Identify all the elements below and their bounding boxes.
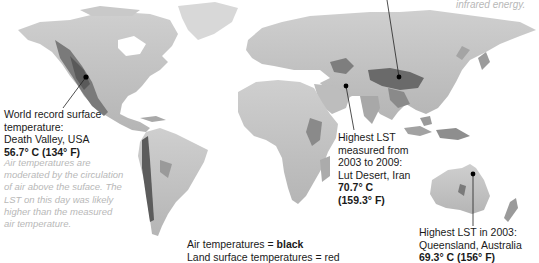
note-line-5: higher than the measured xyxy=(4,206,123,218)
death-valley-line-1: World record surface xyxy=(4,108,101,121)
legend-air: Air temperatures = black xyxy=(187,238,340,251)
lut-value-celsius: 70.7° C xyxy=(338,181,410,194)
legend-land: Land surface temperatures = red xyxy=(187,251,340,263)
lut-line-4: Lut Desert, Iran xyxy=(338,169,410,182)
lut-line-3: 2003 to 2009: xyxy=(338,156,410,169)
tibet-marker xyxy=(397,75,402,80)
note-line-2: moderated by the circulation xyxy=(4,169,123,181)
death-valley-line-2: temperature: xyxy=(4,121,101,134)
air-temperature-note: Air temperatures are moderated by the ci… xyxy=(4,157,123,230)
note-line-3: of air above the suface. The xyxy=(4,181,123,193)
death-valley-annotation: World record surface temperature: Death … xyxy=(4,108,101,158)
queensland-line-2: Queensland, Australia xyxy=(419,239,522,252)
note-line-1: Air temperatures are xyxy=(4,157,123,169)
queensland-marker xyxy=(471,172,476,177)
legend-land-prefix: Land surface temperatures = xyxy=(187,251,324,263)
lut-line-2: measured from xyxy=(338,144,410,157)
note-line-4: LST on this day was likely xyxy=(4,194,123,206)
death-valley-line-3: Death Valley, USA xyxy=(4,133,101,146)
legend: Air temperatures = black Land surface te… xyxy=(187,238,340,263)
lut-line-1: Highest LST xyxy=(338,131,410,144)
death-valley-marker xyxy=(83,74,88,79)
queensland-line-1: Highest LST in 2003: xyxy=(419,226,522,239)
south-america xyxy=(138,128,208,236)
legend-land-value: red xyxy=(324,251,339,263)
queensland-value: 69.3° C (156° F) xyxy=(419,251,522,263)
lut-desert-marker xyxy=(344,84,349,89)
lut-value-fahrenheit: (159.3° F) xyxy=(338,194,410,207)
lut-desert-annotation: Highest LST measured from 2003 to 2009: … xyxy=(338,131,410,206)
queensland-annotation: Highest LST in 2003: Queensland, Austral… xyxy=(419,226,522,263)
legend-air-value: black xyxy=(277,238,304,250)
legend-air-prefix: Air temperatures = xyxy=(187,238,277,250)
top-note: infrared energy. xyxy=(456,0,525,11)
note-line-6: air temperature. xyxy=(4,218,123,230)
